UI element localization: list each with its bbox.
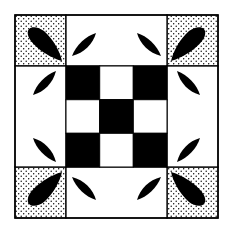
strip-right bbox=[167, 66, 218, 167]
strip-bottom bbox=[66, 167, 167, 218]
center-nine-patch bbox=[66, 66, 167, 167]
strip-left bbox=[15, 66, 66, 167]
strip-top bbox=[66, 15, 167, 66]
quilt-block bbox=[0, 0, 233, 233]
